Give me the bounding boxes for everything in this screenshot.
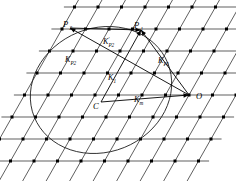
- lattice-node: [72, 50, 75, 53]
- vector-label-K_prime_P2-subscript: P2: [107, 42, 114, 48]
- lattice-node: [167, 6, 170, 9]
- lattice-node: [191, 6, 194, 9]
- diagram-svg: KP1KP2K'P2K1Km O C P 1 P 2: [0, 0, 236, 181]
- lattice-node: [130, 72, 133, 75]
- lattice-node: [95, 50, 98, 53]
- vector-label-K_P1-subscript: P1: [162, 61, 169, 67]
- lattice-node: [119, 50, 122, 53]
- lattice-node: [70, 94, 73, 97]
- point-label-O: O: [196, 91, 202, 101]
- vector-label-K_m-subscript: m: [139, 100, 143, 106]
- lattice-node: [56, 160, 59, 163]
- lattice-node: [9, 160, 12, 163]
- lattice-node: [127, 160, 130, 163]
- lattice-node: [202, 28, 205, 31]
- lattice-node: [103, 160, 106, 163]
- ewald-circle: [11, 6, 191, 175]
- lattice-node: [222, 116, 225, 119]
- lattice-node: [11, 116, 14, 119]
- lattice-node: [33, 160, 36, 163]
- lattice-node: [186, 138, 189, 141]
- point-label-C: C: [93, 101, 99, 111]
- lattice-node: [105, 116, 108, 119]
- lattice-node: [116, 138, 119, 141]
- figure-canvas: KP1KP2K'P2K1Km O C P 1 P 2: [0, 0, 236, 181]
- lattice-node: [213, 50, 216, 53]
- lattice-node: [163, 138, 166, 141]
- vector-label-K_1-subscript: 1: [113, 78, 116, 84]
- lattice-node: [58, 116, 61, 119]
- lattice-node: [210, 138, 213, 141]
- lattice-node: [117, 94, 120, 97]
- lattice-node: [150, 160, 153, 163]
- lattice-node: [211, 94, 214, 97]
- lattice-node: [178, 28, 181, 31]
- lattice-node: [83, 72, 86, 75]
- lattice-node: [80, 160, 83, 163]
- lattice-node: [0, 138, 1, 141]
- K_P2-shaft: [70, 28, 189, 95]
- lattice-node: [69, 138, 72, 141]
- lattice-node: [235, 94, 237, 97]
- lattice-node: [164, 94, 167, 97]
- lattice-node: [200, 72, 203, 75]
- K_m-shaft: [101, 95, 189, 102]
- vector-label-K_P2-subscript: P2: [69, 60, 76, 66]
- lattice-node: [22, 138, 25, 141]
- lattice-node: [92, 138, 95, 141]
- lattice-node: [225, 28, 228, 31]
- lattice-node: [144, 6, 147, 9]
- lattice-node: [141, 94, 144, 97]
- point-label-P2: P: [62, 19, 68, 29]
- lattice-node: [197, 160, 200, 163]
- lattice-node: [120, 6, 123, 9]
- lattice-node: [175, 116, 178, 119]
- lattice-node: [81, 116, 84, 119]
- lattice-node: [155, 28, 158, 31]
- lattice-node: [47, 94, 50, 97]
- lattice-node: [153, 72, 156, 75]
- lattice-node: [23, 94, 26, 97]
- point-label-P1: P: [133, 20, 139, 30]
- lattice-node: [224, 72, 227, 75]
- lattice-node: [97, 6, 100, 9]
- lattice-node: [59, 72, 62, 75]
- point-label-P1-subscript: 1: [141, 26, 144, 32]
- lattice-node: [177, 72, 180, 75]
- lattice-node: [142, 50, 145, 53]
- lattice-node: [128, 116, 131, 119]
- lattice-node: [166, 50, 169, 53]
- lattice-node: [94, 94, 97, 97]
- lattice-node: [73, 6, 76, 9]
- lattice-node: [199, 116, 202, 119]
- lattice-node: [152, 116, 155, 119]
- point-label-P2-subscript: 2: [70, 25, 73, 31]
- lattice-node: [45, 138, 48, 141]
- lattice-node: [214, 6, 217, 9]
- lattice-node: [189, 50, 192, 53]
- lattice-node: [174, 160, 177, 163]
